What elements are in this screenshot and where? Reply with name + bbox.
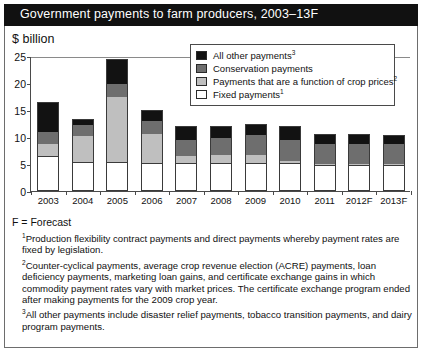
bar-2007[interactable] <box>175 126 197 191</box>
legend-item-crop[interactable]: Payments that are a function of crop pri… <box>196 75 389 88</box>
x-axis-tick-mark <box>273 191 274 195</box>
x-axis-tick-label: 2003 <box>38 195 59 206</box>
legend-item-cons[interactable]: Conservation payments <box>196 62 389 75</box>
legend-swatch-fixed <box>196 90 207 99</box>
legend-footnote-marker: 2 <box>394 75 398 82</box>
x-axis-tick-label: 2013F <box>380 195 407 206</box>
bar-2008[interactable] <box>210 126 232 191</box>
bar-segment-fixed <box>279 163 301 191</box>
x-axis-tick-label: 2009 <box>245 195 266 206</box>
x-axis-tick-mark <box>238 191 239 195</box>
y-axis-tick-mark <box>27 57 31 58</box>
bar-segment-cons <box>279 140 301 161</box>
bar-segment-other <box>141 110 163 121</box>
legend-label: Conservation payments <box>213 64 313 74</box>
bar-segment-fixed <box>106 162 128 191</box>
bar-segment-other <box>245 124 267 136</box>
bar-segment-cons <box>141 121 163 134</box>
x-axis-tick-mark <box>411 191 412 195</box>
x-axis-tick-label: 2006 <box>141 195 162 206</box>
bar-2013F[interactable] <box>383 135 405 191</box>
bar-segment-crop <box>175 156 197 163</box>
footnote-2: 2Counter-cyclical payments, average crop… <box>12 260 412 306</box>
x-axis-tick-mark <box>100 191 101 195</box>
footnote-1: 1Production flexibility contract payment… <box>12 233 412 256</box>
bar-segment-fixed <box>383 165 405 191</box>
x-axis-tick-label: 2011 <box>314 195 334 206</box>
bar-segment-other <box>348 134 370 144</box>
x-axis-tick-mark <box>135 191 136 195</box>
bar-segment-fixed <box>141 163 163 191</box>
bar-2010[interactable] <box>279 126 301 191</box>
x-axis-tick-mark <box>376 191 377 195</box>
legend-item-other[interactable]: All other payments3 <box>196 49 389 62</box>
bar-segment-cons <box>348 144 370 163</box>
bar-2009[interactable] <box>245 124 267 191</box>
x-axis-tick-mark <box>66 191 67 195</box>
bar-2011[interactable] <box>314 134 336 191</box>
y-axis-tick-mark <box>27 111 31 112</box>
bar-segment-cons <box>383 144 405 163</box>
x-axis-tick-mark <box>204 191 205 195</box>
legend-swatch-cons <box>196 64 207 73</box>
bar-segment-other <box>210 126 232 138</box>
bar-segment-crop <box>72 136 94 162</box>
bar-segment-cons <box>175 140 197 156</box>
chart-notes: F = Forecast 1Production flexibility con… <box>12 216 412 336</box>
y-axis-unit-label: $ billion <box>12 32 54 46</box>
bar-segment-crop <box>210 155 232 163</box>
bar-2005[interactable] <box>106 59 128 191</box>
x-axis-tick-label: 2012F <box>346 195 373 206</box>
bar-2012F[interactable] <box>348 134 370 191</box>
y-axis-tick-mark <box>27 84 31 85</box>
bar-segment-crop <box>141 134 163 163</box>
bar-segment-fixed <box>72 162 94 191</box>
chart-legend: All other payments3Conservation payments… <box>190 44 395 106</box>
bar-segment-cons <box>72 125 94 136</box>
chart-title-bar: Government payments to farm producers, 2… <box>4 4 418 26</box>
bar-segment-other <box>106 59 128 84</box>
page-title: Government payments to farm producers, 2… <box>20 7 318 21</box>
bar-segment-cons <box>314 144 336 163</box>
forecast-note: F = Forecast <box>12 216 412 228</box>
y-axis-tick-mark <box>27 165 31 166</box>
bar-segment-fixed <box>210 163 232 191</box>
legend-label: Payments that are a function of crop pri… <box>213 77 397 87</box>
legend-swatch-crop <box>196 77 207 86</box>
footnote-text: All other payments include disaster reli… <box>22 309 412 331</box>
footnote-3: 3All other payments include disaster rel… <box>12 309 412 332</box>
x-axis-tick-label: 2007 <box>176 195 197 206</box>
bar-segment-fixed <box>245 163 267 191</box>
footnote-text: Production flexibility contract payments… <box>22 233 399 255</box>
x-axis-tick-mark <box>169 191 170 195</box>
bar-segment-fixed <box>348 165 370 191</box>
bar-segment-cons <box>106 84 128 98</box>
x-axis-tick-label: 2008 <box>210 195 231 206</box>
y-axis-tick-mark <box>27 138 31 139</box>
x-axis-tick-mark <box>342 191 343 195</box>
bar-segment-other <box>175 126 197 140</box>
legend-label: Fixed payments1 <box>213 90 284 100</box>
legend-item-fixed[interactable]: Fixed payments1 <box>196 88 389 101</box>
bar-segment-fixed <box>37 156 59 191</box>
legend-footnote-marker: 3 <box>292 49 296 56</box>
bar-segment-other <box>314 134 336 144</box>
bar-segment-other <box>37 102 59 131</box>
bar-segment-crop <box>245 155 267 163</box>
chart-page: Government payments to farm producers, 2… <box>0 0 423 352</box>
bar-2006[interactable] <box>141 110 163 191</box>
x-axis-tick-label: 2005 <box>107 195 128 206</box>
bar-2003[interactable] <box>37 102 59 191</box>
bar-segment-other <box>279 126 301 140</box>
bar-segment-cons <box>37 132 59 144</box>
bar-segment-crop <box>106 97 128 162</box>
x-axis-tick-label: 2010 <box>280 195 301 206</box>
x-axis-tick-mark <box>31 191 32 195</box>
x-axis-tick-mark <box>307 191 308 195</box>
bar-segment-crop <box>37 144 59 157</box>
bar-2004[interactable] <box>72 119 94 191</box>
bar-segment-other <box>383 135 405 144</box>
bar-segment-cons <box>245 135 267 154</box>
bar-segment-cons <box>210 138 232 155</box>
x-axis-tick-label: 2004 <box>72 195 93 206</box>
